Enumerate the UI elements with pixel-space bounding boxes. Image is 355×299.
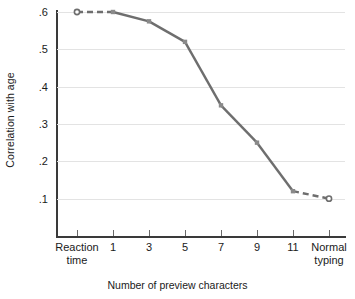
data-point-marker [183,40,187,44]
data-point-marker [291,189,295,193]
x-axis-tick-label: 11 [287,241,298,254]
x-axis-tick-label: 5 [182,241,188,254]
data-point-marker [255,140,259,144]
x-axis-tick-label: 1 [110,241,116,254]
data-point-marker [219,103,223,107]
x-axis-tick-label: Reaction time [55,241,98,266]
series-segment [113,12,149,21]
series-segment [257,143,293,192]
y-axis-tick-label: .1 [39,193,48,204]
y-axis-tick-label: .4 [39,81,48,92]
x-axis-tick-mark [113,230,114,236]
x-axis-tick-labels: Reaction time1357911Normal typing [0,241,355,277]
x-axis-tick-label: 7 [218,241,224,254]
chart-figure: Correlation with age .6.5.4.3.2.1 Reacti… [0,0,355,299]
x-axis-tick-label: Normal typing [311,241,346,266]
x-axis-tick-mark [185,230,186,236]
data-point-marker [74,9,79,14]
y-axis-tick-labels: .6.5.4.3.2.1 [20,0,52,240]
x-axis-line [56,236,346,238]
data-point-marker [147,19,151,23]
x-axis-tick-mark [293,230,294,236]
x-axis-label: Number of preview characters [0,279,355,291]
y-axis-label-container: Correlation with age [0,0,20,240]
x-axis-tick-mark [257,230,258,236]
x-axis-tick-mark [77,230,78,236]
data-point-marker [326,196,331,201]
series-segment [149,21,185,42]
x-axis-tick-mark [149,230,150,236]
x-axis-tick-mark [329,230,330,236]
y-axis-label: Correlation with age [4,72,16,167]
series-segment [221,105,257,142]
data-series-line [57,12,345,236]
series-segment [293,191,329,198]
x-axis-tick-label: 9 [254,241,260,254]
x-axis-tick-mark [221,230,222,236]
series-segment [185,42,221,105]
plot-area [57,12,345,236]
x-axis-tick-label: 3 [146,241,152,254]
y-axis-tick-label: .6 [39,7,48,18]
y-axis-tick-label: .2 [39,156,48,167]
y-axis-tick-label: .3 [39,119,48,130]
y-axis-tick-label: .5 [39,44,48,55]
data-point-marker [111,10,115,14]
